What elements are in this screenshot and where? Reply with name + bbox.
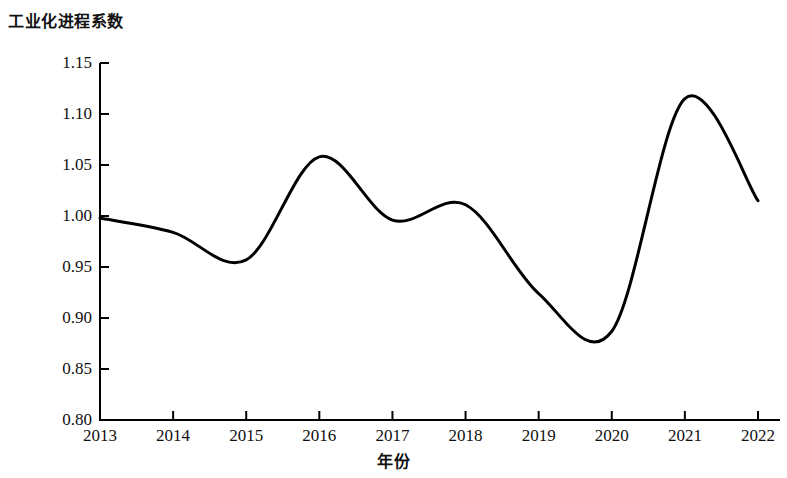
chart-figure: 工业化进程系数 0.800.850.900.951.001.051.101.15… bbox=[0, 0, 787, 478]
series-line bbox=[100, 96, 758, 342]
chart-axes bbox=[100, 63, 780, 420]
axis-spine bbox=[100, 63, 780, 420]
line-chart-plot bbox=[0, 0, 787, 478]
chart-series bbox=[100, 96, 758, 342]
x-axis-label: 年份 bbox=[0, 448, 787, 472]
